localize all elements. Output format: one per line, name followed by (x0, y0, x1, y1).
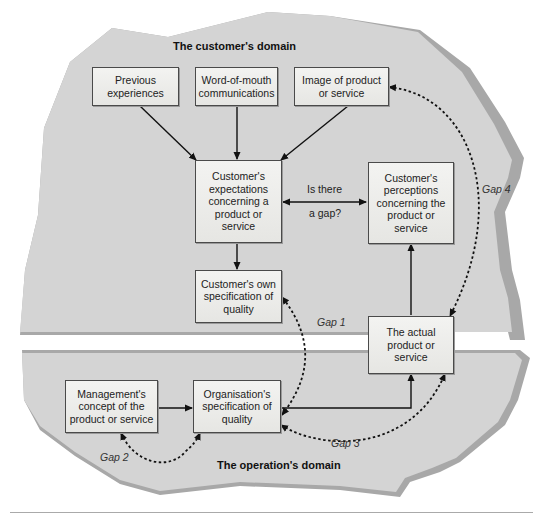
box-customer-expectations: Customer's expectations concerning a pro… (195, 160, 282, 243)
box-word-of-mouth: Word-of-mouth communications (195, 67, 278, 106)
box-image-of-product: Image of product or service (294, 67, 389, 106)
gap-question-line1: Is there (307, 183, 342, 195)
box-previous-experiences: Previous experiences (92, 67, 179, 106)
operation-domain-title: The operation's domain (217, 459, 341, 471)
gap-3-label: Gap 3 (331, 437, 360, 449)
box-customer-own-specification: Customer's own specification of quality (195, 270, 282, 323)
gap-1-label: Gap 1 (317, 316, 346, 328)
box-actual-product: The actual product or service (368, 316, 454, 374)
gap-4-label: Gap 4 (482, 183, 511, 195)
gap-2-label: Gap 2 (100, 451, 129, 463)
customer-domain-title: The customer's domain (173, 40, 296, 52)
box-customer-perceptions: Customer's perceptions concerning the pr… (368, 162, 454, 244)
caption-divider (10, 512, 533, 513)
box-management-concept: Management's concept of the product or s… (65, 380, 158, 433)
box-organisation-specification: Organisation's specification of quality (193, 380, 281, 433)
gap-question-line2: a gap? (309, 207, 341, 219)
